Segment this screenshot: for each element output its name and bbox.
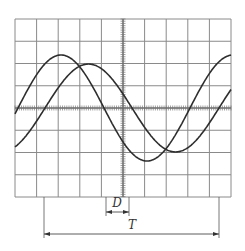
- arrow-head-icon: [123, 210, 129, 214]
- arrow-head-icon: [213, 232, 219, 236]
- period-label: T: [128, 218, 137, 232]
- graticule-center-axes: [15, 19, 231, 197]
- arrow-head-icon: [106, 210, 112, 214]
- oscilloscope-diagram: DT: [0, 0, 245, 251]
- phase-shift-label: D: [111, 196, 122, 210]
- arrow-head-icon: [44, 232, 50, 236]
- annotations: DT: [44, 196, 219, 238]
